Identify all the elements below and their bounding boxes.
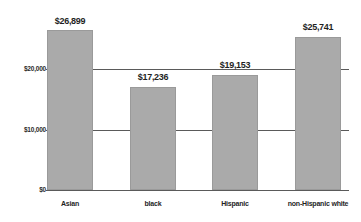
bar-value-non-hispanic-white: $25,741 <box>283 23 353 32</box>
bar-black <box>130 87 176 190</box>
xlabel-non-hispanic-white: non-Hispanic white <box>283 200 353 207</box>
bar-hispanic <box>212 75 258 190</box>
xlabel-hispanic: Hispanic <box>200 200 270 207</box>
plot-area: $20,000 $10,000 $0 $26,899 Asian $17,236… <box>0 0 361 222</box>
xlabel-asian: Asian <box>35 200 105 207</box>
bar-asian <box>47 30 93 190</box>
bar-value-asian: $26,899 <box>35 17 105 26</box>
bar-value-black: $17,236 <box>118 73 188 82</box>
bar-chart: $20,000 $10,000 $0 $26,899 Asian $17,236… <box>0 0 361 222</box>
ytick-label-20000: $20,000 <box>24 66 46 73</box>
ytick-label-0: $0 <box>39 187 46 194</box>
bar-non-hispanic-white <box>295 37 341 190</box>
ytick-label-10000: $10,000 <box>24 127 46 134</box>
bar-value-hispanic: $19,153 <box>200 61 270 70</box>
xlabel-black: black <box>118 200 188 207</box>
axis-baseline <box>46 190 349 191</box>
